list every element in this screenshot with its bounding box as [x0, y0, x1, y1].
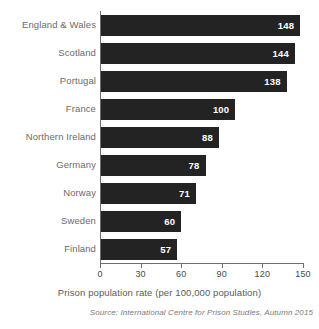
- bar-value-label: 100: [213, 104, 229, 115]
- bar-row: 71: [100, 183, 303, 204]
- x-axis-line: [100, 263, 304, 264]
- bar-row: 144: [100, 43, 303, 64]
- bar: 144: [100, 43, 295, 64]
- bar: 78: [100, 155, 206, 176]
- category-label: England & Wales: [0, 19, 96, 30]
- bar: 138: [100, 71, 287, 92]
- bar-row: 78: [100, 155, 303, 176]
- source-note: Source: International Centre for Prison …: [0, 308, 313, 317]
- bar-row: 100: [100, 99, 303, 120]
- x-tick-mark: [100, 263, 101, 268]
- x-tick-label: 90: [217, 269, 227, 279]
- category-label: Scotland: [0, 47, 96, 58]
- bar: 71: [100, 183, 196, 204]
- bar-row: 57: [100, 239, 303, 260]
- bar-value-label: 148: [278, 20, 294, 31]
- x-axis-title: Prison population rate (per 100,000 popu…: [0, 287, 319, 298]
- prison-population-bar-chart: England & WalesScotlandPortugalFranceNor…: [0, 0, 319, 329]
- bar-value-label: 71: [179, 188, 190, 199]
- x-tick-label: 60: [176, 269, 186, 279]
- y-axis-line: [100, 11, 101, 263]
- x-tick-mark: [141, 263, 142, 268]
- plot-area: 1481441381008878716057: [100, 11, 303, 263]
- x-tick-label: 30: [135, 269, 145, 279]
- x-tick-mark: [222, 263, 223, 268]
- bar-value-label: 144: [272, 48, 288, 59]
- bar: 100: [100, 99, 235, 120]
- x-tick-label: 150: [295, 269, 311, 279]
- bar-row: 60: [100, 211, 303, 232]
- bar-value-label: 78: [189, 160, 200, 171]
- bar-value-label: 60: [164, 216, 175, 227]
- bar-row: 88: [100, 127, 303, 148]
- category-label: Finland: [0, 243, 96, 254]
- category-label: Northern Ireland: [0, 131, 96, 142]
- category-axis: England & WalesScotlandPortugalFranceNor…: [0, 11, 96, 263]
- bar: 88: [100, 127, 219, 148]
- x-tick-label: 120: [255, 269, 271, 279]
- bar-row: 148: [100, 15, 303, 36]
- category-label: Sweden: [0, 215, 96, 226]
- x-tick-mark: [303, 263, 304, 268]
- bar: 60: [100, 211, 181, 232]
- x-tick-label: 0: [97, 269, 102, 279]
- bar-value-label: 138: [264, 76, 280, 87]
- bar: 57: [100, 239, 177, 260]
- category-label: France: [0, 103, 96, 114]
- x-tick-mark: [181, 263, 182, 268]
- category-label: Norway: [0, 187, 96, 198]
- x-tick-mark: [262, 263, 263, 268]
- bar: 148: [100, 15, 300, 36]
- bar-row: 138: [100, 71, 303, 92]
- category-label: Portugal: [0, 75, 96, 86]
- bar-value-label: 88: [202, 132, 213, 143]
- bar-value-label: 57: [160, 244, 171, 255]
- category-label: Germany: [0, 159, 96, 170]
